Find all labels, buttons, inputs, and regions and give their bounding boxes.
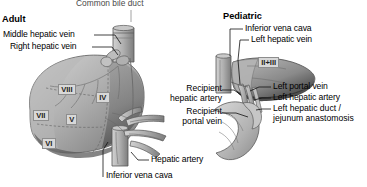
label-inferior-vena-cava-adult: Inferior vena cava — [106, 171, 173, 181]
leader-inferior-vena-cava-ped — [230, 29, 243, 56]
panel-title-adult: Adult — [2, 14, 25, 24]
label-left-portal-vein: Left portal vein — [273, 82, 328, 92]
leader-hepatic-artery — [131, 152, 149, 160]
segment-vi-box: VI — [42, 138, 56, 149]
label-middle-hepatic-vein: Middle hepatic vein — [3, 30, 75, 40]
label-left-hepatic-artery: Left hepatic artery — [273, 93, 340, 103]
label-inferior-vena-cava-pediatric: Inferior vena cava — [245, 24, 312, 34]
segment-ii-iii-box: II+III — [258, 57, 279, 68]
label-recipient-portal-vein: Recipient portal vein — [148, 107, 222, 126]
segment-v-box: V — [66, 114, 77, 125]
label-left-hepatic-duct-jejunum-anastomosis: Left hepatic duct / jejunum anastomosis — [273, 104, 367, 123]
segment-viii-box: VIII — [58, 84, 76, 95]
figure-canvas: Common bile duct Adult Pediatric Middle … — [0, 0, 367, 187]
segment-iv-box: IV — [96, 92, 110, 103]
panel-title-pediatric: Pediatric — [223, 11, 262, 21]
label-left-hepatic-vein: Left hepatic vein — [251, 35, 312, 45]
label-right-hepatic-vein: Right hepatic vein — [10, 42, 77, 52]
caption-common-bile-duct: Common bile duct — [76, 0, 144, 8]
label-recipient-hepatic-artery: Recipient hepatic artery — [148, 84, 222, 103]
label-hepatic-artery: Hepatic artery — [151, 155, 203, 165]
segment-vii-box: VII — [33, 110, 49, 121]
